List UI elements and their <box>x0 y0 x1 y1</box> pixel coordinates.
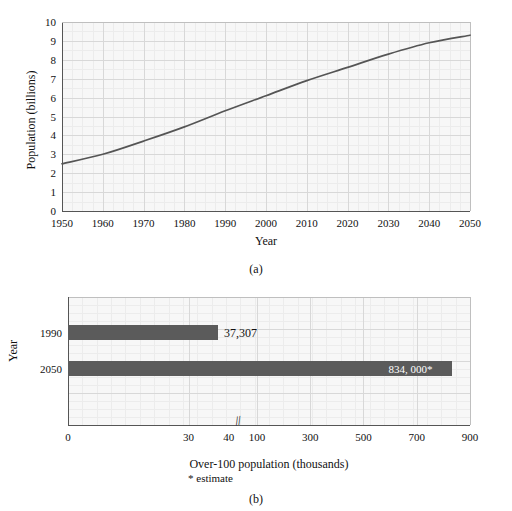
panel-b-x-axis-title: Over-100 population (thousands) <box>129 457 409 471</box>
panel-a-line-chart: Population (billions) 012345678910195019… <box>0 0 512 280</box>
panel-a-caption: (a) <box>0 262 512 276</box>
bar-value-label: 37,307 <box>224 326 257 340</box>
panel-b-gridline-h <box>68 393 470 394</box>
panel-b-x-tick-label: 30 <box>167 431 211 443</box>
panel-b-x-tick-label: 500 <box>341 431 385 443</box>
panel-b-category-label: 2050 <box>26 363 62 376</box>
panel-b-x-tick-label: 300 <box>288 431 332 443</box>
bar-1990 <box>68 325 218 340</box>
bar-value-label: 834, 000* <box>388 363 432 376</box>
panel-b-overlay-layer: 199037,3072050834, 000*03040100300500700… <box>0 280 512 511</box>
panel-b-x-tick-label: 700 <box>395 431 439 443</box>
panel-b-x-axis-line <box>68 425 470 426</box>
panel-b-x-tick-label: 0 <box>46 431 90 443</box>
panel-b-bar-chart: Year 199037,3072050834, 000*030401003005… <box>0 280 512 511</box>
panel-b-caption: (b) <box>0 492 512 506</box>
panel-b-x-tick-label: 900 <box>448 431 492 443</box>
panel-b-x-tick-label: 100 <box>235 431 279 443</box>
panel-b-footnote: * estimate <box>188 472 233 485</box>
panel-b-frame-right <box>470 297 471 425</box>
panel-b-category-label: 1990 <box>26 327 62 340</box>
panel-a-x-axis-title: Year <box>186 234 346 248</box>
panel-b-frame-top <box>68 297 470 298</box>
figure-root: Population (billions) 012345678910195019… <box>0 0 512 511</box>
